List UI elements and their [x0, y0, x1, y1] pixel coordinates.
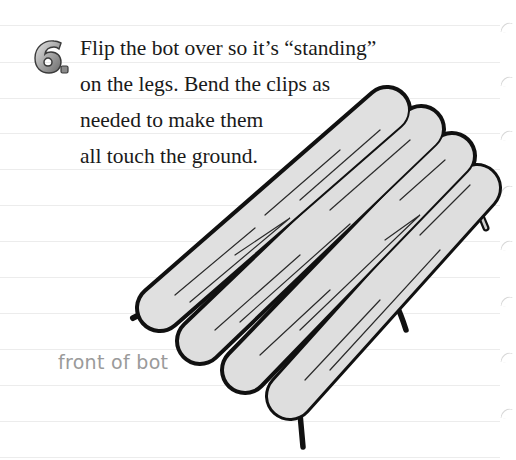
- front-of-bot-label: front of bot: [58, 351, 168, 373]
- craft-sticks: [160, 110, 477, 396]
- bot-illustration: [0, 0, 516, 460]
